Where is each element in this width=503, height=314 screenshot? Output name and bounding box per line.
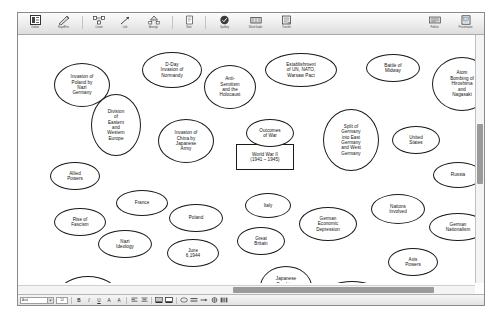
toolbar-button-rapidfire[interactable]: RapidFire xyxy=(48,14,79,34)
spelling-check-icon xyxy=(218,14,231,25)
toolbar-button-spelling[interactable]: Spelling xyxy=(209,14,240,34)
toolbar-label-rapidfire: RapidFire xyxy=(58,26,69,30)
font-family-value: Arial xyxy=(22,297,28,304)
italic-icon[interactable]: I xyxy=(85,296,93,304)
node-dday[interactable]: D-Day Invasion of Normandy xyxy=(142,52,202,88)
toolbar-label-publish: Publish xyxy=(430,26,438,30)
application-window: Outline RapidFire Create Link xyxy=(17,12,485,306)
position-icon[interactable] xyxy=(210,296,218,304)
shape-icon[interactable] xyxy=(180,296,188,304)
toolbar-button-arrange[interactable]: Arrange xyxy=(138,14,169,34)
node-dday-label: D-Day Invasion of Normandy xyxy=(161,62,184,78)
central-topic[interactable]: World War II (1941 – 1945) xyxy=(236,144,294,170)
format-toolbar: Arial 14 B I U A A xyxy=(18,294,484,305)
underline-icon[interactable]: U xyxy=(95,296,103,304)
link-arrow-icon xyxy=(119,14,132,25)
fill-color-icon[interactable] xyxy=(155,296,163,304)
node-june-1944-label: June 6,1944 xyxy=(186,248,200,259)
diagram-canvas-area[interactable]: World War II (1941 – 1945)Invasion of Po… xyxy=(18,35,484,283)
outline-icon xyxy=(29,14,42,25)
line-style-icon[interactable] xyxy=(190,296,198,304)
node-invasion-poland-label: Invasion of Poland by Nazi Germany xyxy=(71,74,94,96)
node-italy-label: Italy xyxy=(264,203,273,208)
format-separator-3 xyxy=(151,297,152,304)
main-toolbar: Outline RapidFire Create Link xyxy=(18,13,484,35)
font-family-select[interactable]: Arial xyxy=(20,297,54,304)
vertical-scrollbar-thumb[interactable] xyxy=(477,124,483,184)
align-left-icon[interactable] xyxy=(130,296,138,304)
node-united-states-label: United States xyxy=(409,135,423,146)
node-france-label: France xyxy=(135,200,150,205)
node-rise-fascism-label: Rise of Fascism xyxy=(71,217,88,228)
node-june-1944[interactable]: June 6,1944 xyxy=(167,239,219,267)
toolbar-button-outline[interactable]: Outline xyxy=(22,14,48,34)
toolbar-button-presentation[interactable]: Presentation xyxy=(450,14,481,34)
node-axis-powers-label: Axis Powers xyxy=(405,257,421,268)
note-icon xyxy=(183,14,196,25)
diagram-canvas[interactable]: World War II (1941 – 1945)Invasion of Po… xyxy=(18,35,484,283)
text-color-icon[interactable]: A xyxy=(105,296,113,304)
text-color-label: A xyxy=(107,298,110,303)
align-center-icon[interactable] xyxy=(140,296,148,304)
text-size-icon[interactable]: A xyxy=(115,296,123,304)
node-battle-midway-label: Battle of Midway xyxy=(384,63,401,74)
format-separator-1 xyxy=(71,297,72,304)
node-allied-powers-label: Allied Powers xyxy=(67,171,83,182)
grid-create-icon xyxy=(93,14,106,25)
node-allied-powers[interactable]: Allied Powers xyxy=(50,162,100,190)
toolbar-button-transfer[interactable]: Transfer xyxy=(271,14,302,34)
lightning-pencil-icon xyxy=(57,14,70,25)
node-invasion-china[interactable]: Invasion of China by Japanese Army xyxy=(158,119,214,163)
node-division-europe[interactable]: Division of Eastern and Western Europe xyxy=(91,94,141,156)
toolbar-button-note[interactable]: Note xyxy=(176,14,202,34)
node-factors-war[interactable]: Factors Leading to War xyxy=(60,276,116,283)
toolbar-button-create[interactable]: Create xyxy=(86,14,112,34)
vertical-scrollbar[interactable] xyxy=(475,35,484,283)
node-battle-midway[interactable]: Battle of Midway xyxy=(366,54,420,82)
node-nations-involved[interactable]: Nations Involved xyxy=(371,194,425,224)
node-establishment[interactable]: Establishment of UN, NATO, Warsaw Pact xyxy=(265,53,337,87)
font-size-select[interactable]: 14 xyxy=(56,297,68,304)
node-key-battles[interactable]: Key Battles xyxy=(324,281,380,283)
chevron-down-icon xyxy=(47,298,53,303)
arrange-hierarchy-icon xyxy=(147,14,160,25)
node-italy[interactable]: Italy xyxy=(245,193,291,218)
toolbar-label-spelling: Spelling xyxy=(220,26,229,30)
horizontal-scrollbar[interactable] xyxy=(18,285,475,294)
node-split-germany[interactable]: Split of Germany into East Germany and W… xyxy=(323,109,379,171)
node-great-britain-label: Great Britain xyxy=(254,236,267,247)
node-anti-semitism[interactable]: Anti- Semitism and the Holocaust xyxy=(204,65,256,109)
bold-icon[interactable]: B xyxy=(75,296,83,304)
toolbar-separator-2 xyxy=(172,16,173,29)
multimedia-icon[interactable] xyxy=(220,296,228,304)
node-great-britain[interactable]: Great Britain xyxy=(237,227,285,255)
line-color-icon[interactable] xyxy=(165,296,173,304)
toolbar-button-word-guide[interactable]: Word Guide xyxy=(240,14,271,34)
node-poland[interactable]: Poland xyxy=(169,204,223,232)
node-rise-fascism[interactable]: Rise of Fascism xyxy=(54,208,106,236)
arrow-style-icon[interactable] xyxy=(200,296,208,304)
node-german-nationalism-label: German Nationalism xyxy=(446,222,471,233)
node-japanese-bombing[interactable]: Japanese Bombing of Pearl Harbor xyxy=(260,266,312,283)
node-outcomes-war[interactable]: Outcomes of War xyxy=(246,119,294,147)
node-atom-bombing-label: Atom Bombing of Hiroshima and Nagasaki xyxy=(450,70,474,97)
toolbar-button-link[interactable]: Link xyxy=(112,14,138,34)
transfer-icon xyxy=(280,14,293,25)
node-united-states[interactable]: United States xyxy=(392,126,440,154)
node-axis-powers[interactable]: Axis Powers xyxy=(388,248,438,276)
node-german-depression[interactable]: German Economic Depression xyxy=(299,207,357,241)
node-nazi-ideology[interactable]: Nazi Ideology xyxy=(98,230,152,258)
screen: Outline RapidFire Create Link xyxy=(0,0,503,314)
publish-icon xyxy=(428,14,441,25)
node-france[interactable]: France xyxy=(116,190,168,216)
node-division-europe-label: Division of Eastern and Western Europe xyxy=(107,109,124,141)
node-anti-semitism-label: Anti- Semitism and the Holocaust xyxy=(220,76,241,98)
horizontal-scrollbar-thumb[interactable] xyxy=(233,287,434,293)
format-separator-2 xyxy=(126,297,127,304)
toolbar-label-presentation: Presentation xyxy=(459,26,473,30)
italic-label: I xyxy=(88,298,89,303)
toolbar-label-arrange: Arrange xyxy=(149,26,158,30)
node-japanese-bombing-label: Japanese Bombing of Pearl Harbor xyxy=(276,276,296,283)
toolbar-separator-3 xyxy=(205,16,206,29)
toolbar-button-publish[interactable]: Publish xyxy=(419,14,450,34)
